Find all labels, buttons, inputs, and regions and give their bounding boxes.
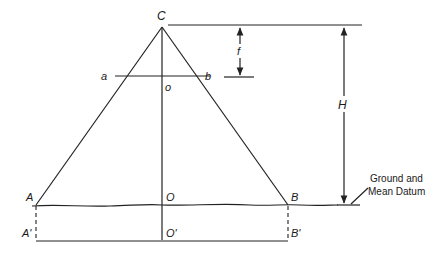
annotation-line1: Ground and <box>370 173 423 184</box>
point-A-prime-label: A' <box>21 227 32 239</box>
point-b-label: b <box>205 70 211 82</box>
ray-C-B <box>162 27 288 205</box>
photo-scale-diagram: f H Ground and Mean Datum C a b o A O B … <box>0 0 446 265</box>
flying-height-label: H <box>338 98 347 112</box>
point-C-label: C <box>157 9 166 23</box>
point-O-prime-label: O' <box>166 227 178 239</box>
point-B-label: B <box>291 191 298 203</box>
annotation-line2: Mean Datum <box>368 186 425 197</box>
ground-line <box>32 204 338 206</box>
point-A-label: A <box>25 191 33 203</box>
annotation-leader <box>351 188 368 204</box>
ray-C-A <box>36 27 162 205</box>
point-a-label: a <box>101 70 107 82</box>
point-o-label: o <box>165 81 171 93</box>
point-O-label: O <box>166 191 175 203</box>
point-B-prime-label: B' <box>291 227 301 239</box>
